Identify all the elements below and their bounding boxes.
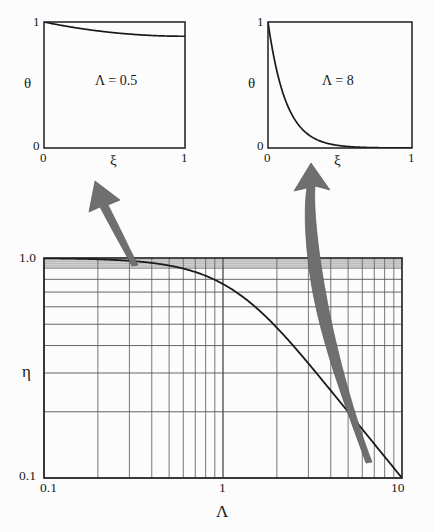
- inset-right-xtick-1: 1: [408, 150, 415, 166]
- inset-left-xtick-0: 0: [40, 150, 47, 166]
- inset-right-ytick-1: 1: [257, 14, 264, 30]
- inset-left-annotation: Λ = 0.5: [95, 73, 137, 89]
- main-plot: [44, 258, 402, 478]
- main-xtick-1: 1: [219, 480, 226, 496]
- inset-right-xtick-0: 0: [264, 150, 271, 166]
- inset-left-ytick-0: 0: [33, 138, 40, 154]
- main-plot-gridlines: [44, 258, 402, 478]
- inset-right-ytick-0: 0: [257, 138, 264, 154]
- main-ytick-bottom: 0.1: [19, 468, 36, 484]
- main-xtick-10: 10: [391, 480, 405, 496]
- main-ytick-top: 1.0: [19, 250, 36, 266]
- inset-left-ylabel: θ: [24, 75, 31, 92]
- main-xlabel: Λ: [216, 502, 228, 522]
- main-ylabel: η: [22, 362, 31, 382]
- inset-right-xlabel: ξ: [334, 152, 341, 169]
- inset-left-xtick-1: 1: [181, 150, 188, 166]
- main-xtick-0p1: 0.1: [40, 480, 57, 496]
- inset-left-ytick-1: 1: [33, 14, 40, 30]
- inset-right-ylabel: θ: [248, 75, 255, 92]
- inset-left-xlabel: ξ: [110, 152, 117, 169]
- fin-efficiency-figure: [0, 0, 434, 532]
- inset-right-annotation: Λ = 8: [322, 73, 354, 89]
